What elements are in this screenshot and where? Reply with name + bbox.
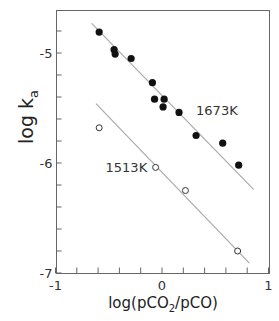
y-tick-label: -6 <box>40 156 53 171</box>
data-points <box>96 28 243 254</box>
filled-circle-marker <box>219 140 226 147</box>
x-tick-label: -1 <box>49 278 62 293</box>
x-axis-ticks: -101 <box>49 268 273 293</box>
filled-circle-marker <box>192 132 199 139</box>
filled-circle-marker <box>149 79 156 86</box>
filled-circle-marker <box>235 162 242 169</box>
plot-frame <box>57 11 270 274</box>
x-tick-label: 1 <box>264 278 272 293</box>
open-circle-marker <box>153 164 159 170</box>
open-circle-marker <box>182 188 188 194</box>
filled-circle-marker <box>96 28 103 35</box>
filled-circle-marker <box>175 109 182 116</box>
series-label: 1673K <box>196 103 238 118</box>
y-axis-title: log ka <box>15 90 41 144</box>
series-label: 1513K <box>106 160 148 175</box>
filled-circle-marker <box>128 55 135 62</box>
filled-circle-marker <box>151 96 158 103</box>
filled-circle-marker <box>112 51 119 58</box>
x-axis-title: log(pCO2/pCO) <box>108 294 218 314</box>
filled-circle-marker <box>159 103 166 110</box>
open-circle-marker <box>235 248 241 254</box>
series-labels: 1673K1513K <box>106 103 239 175</box>
x-tick-label: 0 <box>158 278 166 293</box>
y-tick-label: -5 <box>40 46 53 61</box>
y-axis-ticks: -7-6-5 <box>40 31 62 281</box>
fit-line <box>96 104 249 264</box>
scatter-chart: -7-6-5 -101 1673K1513K log ka log(pCO2/p… <box>0 0 279 321</box>
filled-circle-marker <box>161 96 168 103</box>
fit-lines <box>92 23 254 263</box>
open-circle-marker <box>96 125 102 131</box>
